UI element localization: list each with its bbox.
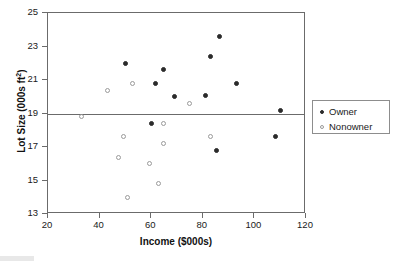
data-point-nonowner xyxy=(105,88,110,93)
data-point-nonowner xyxy=(116,155,121,160)
data-point-nonowner xyxy=(147,161,152,166)
page-artifact xyxy=(0,256,34,261)
data-point-nonowner xyxy=(187,101,192,106)
data-point-nonowner xyxy=(156,181,161,186)
x-axis-tick-label: 100 xyxy=(236,220,270,230)
data-point-nonowner xyxy=(161,141,166,146)
data-point-owner xyxy=(278,108,283,113)
data-point-owner xyxy=(172,94,177,99)
x-axis-tick-label: 40 xyxy=(82,220,116,230)
y-axis-tick xyxy=(42,146,47,147)
y-axis-tick xyxy=(42,180,47,181)
y-axis-tick-label: 25 xyxy=(18,7,38,17)
data-point-nonowner xyxy=(125,195,130,200)
x-axis-title: Income ($000s) xyxy=(47,236,305,247)
x-axis-tick xyxy=(150,213,151,218)
y-axis-tick xyxy=(42,46,47,47)
data-point-owner xyxy=(153,81,158,86)
y-axis-tick-label: 13 xyxy=(18,208,38,218)
data-point-owner xyxy=(214,148,219,153)
data-point-owner xyxy=(217,34,222,39)
y-axis-tick xyxy=(42,79,47,80)
data-point-nonowner xyxy=(130,81,135,86)
legend-marker-owner-icon xyxy=(317,110,326,114)
y-axis-title: Lot Size (000s ft2) xyxy=(15,41,27,181)
data-point-nonowner xyxy=(161,121,166,126)
data-point-owner xyxy=(161,67,166,72)
data-point-nonowner xyxy=(79,114,84,119)
legend-marker-nonowner-icon xyxy=(317,125,326,129)
y-axis-tick xyxy=(42,12,47,13)
legend: Owner Nonowner xyxy=(312,100,390,134)
y-axis-title-superscript: 2 xyxy=(15,73,22,77)
data-point-nonowner xyxy=(121,134,126,139)
x-axis-tick xyxy=(99,213,100,218)
legend-item-owner: Owner xyxy=(317,104,389,119)
x-axis-tick xyxy=(47,213,48,218)
x-axis-tick-label: 60 xyxy=(133,220,167,230)
data-point-nonowner xyxy=(208,134,213,139)
data-point-owner xyxy=(149,121,154,126)
y-axis-title-text: Lot Size (000s ft xyxy=(16,77,27,153)
data-point-owner xyxy=(273,134,278,139)
data-point-owner xyxy=(208,54,213,59)
reference-line-19 xyxy=(48,114,304,115)
y-axis-title-suffix: ) xyxy=(16,69,27,72)
x-axis-tick-label: 20 xyxy=(30,220,64,230)
x-axis-tick xyxy=(305,213,306,218)
x-axis-tick-label: 80 xyxy=(185,220,219,230)
x-axis-tick xyxy=(253,213,254,218)
y-axis-tick xyxy=(42,113,47,114)
scatter-plot-figure: 13151719212325 20406080100120 Income ($0… xyxy=(0,0,393,262)
data-point-owner xyxy=(203,93,208,98)
x-axis-tick xyxy=(202,213,203,218)
legend-item-nonowner: Nonowner xyxy=(317,119,389,134)
plot-area xyxy=(47,12,305,213)
data-point-owner xyxy=(234,81,239,86)
legend-label-nonowner: Nonowner xyxy=(329,121,372,132)
legend-label-owner: Owner xyxy=(329,106,357,117)
data-point-owner xyxy=(123,61,128,66)
x-axis-tick-label: 120 xyxy=(288,220,322,230)
